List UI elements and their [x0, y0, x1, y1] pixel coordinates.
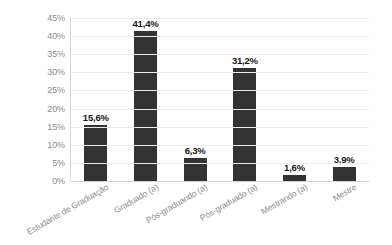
x-axis-category-labels: Estudante de GraduaçãoGraduado (a)Pós-gr…: [70, 182, 368, 244]
gridline: [71, 54, 369, 55]
y-axis-tick-label: 15%: [20, 122, 65, 132]
y-axis-tick-label: 5%: [20, 158, 65, 168]
bar-slot: 15,6%: [71, 18, 121, 181]
x-axis-category-label: Estudante de Graduação: [0, 182, 110, 245]
gridline: [71, 36, 369, 37]
gridline: [71, 109, 369, 110]
bar-slot: 1,6%: [270, 18, 320, 181]
bar-value-label: 31,2%: [215, 55, 275, 66]
bar-slot: 3,9%: [319, 18, 369, 181]
bar-value-label: 15,6%: [66, 112, 126, 123]
plot-area: 15,6%41,4%6,3%31,2%1,6%3,9%: [70, 18, 369, 181]
bar[interactable]: [184, 158, 207, 181]
bar-chart: 45%40%35%30%25%20%15%10%5%0% 15,6%41,4%6…: [0, 0, 392, 245]
bar-slot: 41,4%: [121, 18, 171, 181]
y-axis-tick-label: 25%: [20, 85, 65, 95]
gridline: [71, 127, 369, 128]
gridline: [71, 90, 369, 91]
y-axis-tick-label: 45%: [20, 13, 65, 23]
bar-series: 15,6%41,4%6,3%31,2%1,6%3,9%: [71, 18, 369, 181]
gridline: [71, 145, 369, 146]
gridline: [71, 163, 369, 164]
bar[interactable]: [84, 125, 107, 182]
bar[interactable]: [233, 68, 256, 181]
y-axis-tick-label: 40%: [20, 31, 65, 41]
bar-value-label: 6,3%: [165, 145, 225, 156]
y-axis-tick-label: 35%: [20, 49, 65, 59]
y-axis-tick-label: 20%: [20, 104, 65, 114]
y-axis-tick-label: 10%: [20, 140, 65, 150]
y-axis-tick-label: 30%: [20, 67, 65, 77]
gridline: [71, 18, 369, 19]
bar-slot: 31,2%: [220, 18, 270, 181]
gridline: [71, 72, 369, 73]
y-axis-tick-label: 0%: [20, 176, 65, 186]
bar-value-label: 41,4%: [116, 18, 176, 29]
y-axis: 45%40%35%30%25%20%15%10%5%0%: [20, 13, 65, 181]
bar[interactable]: [333, 167, 356, 181]
bar-slot: 6,3%: [170, 18, 220, 181]
